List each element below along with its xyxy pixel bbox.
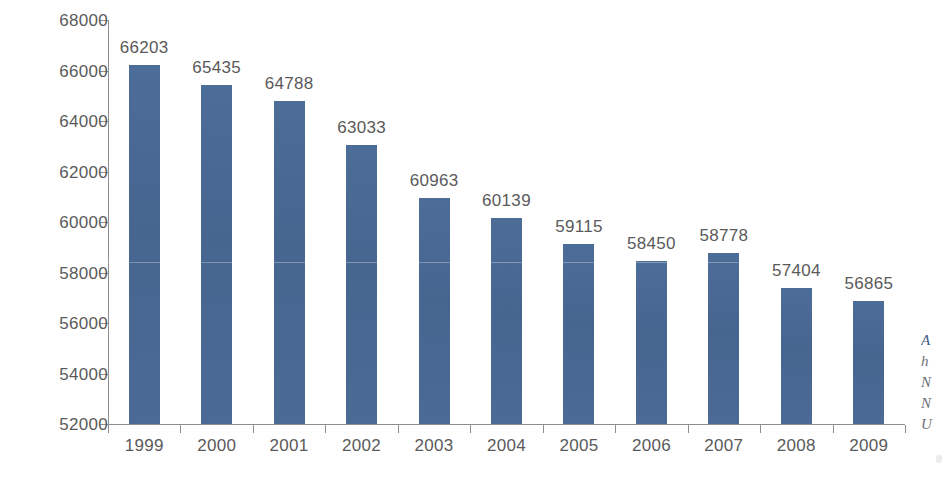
x-axis-tick xyxy=(180,425,181,433)
x-axis-tick xyxy=(833,425,834,433)
bar-value-label: 56865 xyxy=(829,275,909,292)
x-axis-tick-label: 1999 xyxy=(108,437,180,454)
x-axis-tick xyxy=(905,425,906,433)
side-note-clipped: AhNNU xyxy=(921,330,948,435)
bar xyxy=(781,288,812,424)
x-axis-tick-label: 2005 xyxy=(543,437,615,454)
side-note-line: N xyxy=(921,393,948,414)
x-axis-tick-label: 2001 xyxy=(253,437,325,454)
bar-value-label: 58450 xyxy=(611,235,691,252)
bar xyxy=(636,261,667,424)
bar-value-label: 65435 xyxy=(177,59,257,76)
bar xyxy=(201,85,232,424)
x-axis-tick-label: 2004 xyxy=(471,437,543,454)
x-axis-tick xyxy=(688,425,689,433)
bar xyxy=(274,101,305,424)
bar xyxy=(346,145,377,424)
x-axis-tick xyxy=(760,425,761,433)
x-axis-tick-label: 2007 xyxy=(688,437,760,454)
x-axis-tick xyxy=(253,425,254,433)
bar-value-label: 59115 xyxy=(539,218,619,235)
x-axis-tick xyxy=(543,425,544,433)
x-axis-tick-label: 2009 xyxy=(833,437,905,454)
bar-value-label: 60139 xyxy=(467,192,547,209)
bar-value-label: 58778 xyxy=(684,227,764,244)
page-edge-artifact xyxy=(936,455,942,463)
y-axis-tick-label: 64000 xyxy=(36,113,108,130)
x-axis-tick-label: 2006 xyxy=(615,437,687,454)
y-axis-tick-label: 58000 xyxy=(36,265,108,282)
bar-value-label: 63033 xyxy=(322,119,402,136)
side-note-line: U xyxy=(921,414,948,435)
x-axis-tick xyxy=(470,425,471,433)
side-note-line: N xyxy=(921,372,948,393)
y-axis-line xyxy=(108,20,109,425)
x-axis-tick-label: 2000 xyxy=(181,437,253,454)
bar xyxy=(419,198,450,424)
y-axis-tick-label: 66000 xyxy=(36,63,108,80)
bar-value-label: 66203 xyxy=(104,39,184,56)
x-axis-tick xyxy=(615,425,616,433)
side-note-line: h xyxy=(921,351,948,372)
x-axis-tick-label: 2008 xyxy=(760,437,832,454)
x-axis-tick xyxy=(325,425,326,433)
x-axis-tick-label: 2003 xyxy=(398,437,470,454)
bar xyxy=(708,253,739,424)
bar xyxy=(853,301,884,424)
x-axis-line xyxy=(108,424,905,425)
y-axis-tick-label: 52000 xyxy=(36,416,108,433)
x-axis-tick-label: 2002 xyxy=(326,437,398,454)
bar-chart: 5200054000560005800060000620006400066000… xyxy=(0,0,948,489)
x-axis-tick xyxy=(108,425,109,433)
bar-value-label: 57404 xyxy=(756,262,836,279)
y-axis-tick-label: 60000 xyxy=(36,214,108,231)
bar xyxy=(563,244,594,424)
y-axis-tick-label: 62000 xyxy=(36,164,108,181)
bar xyxy=(129,65,160,424)
y-axis-tick-label: 68000 xyxy=(36,12,108,29)
x-axis-tick xyxy=(398,425,399,433)
bar xyxy=(491,218,522,424)
bar-value-label: 64788 xyxy=(249,75,329,92)
y-axis-tick-label: 56000 xyxy=(36,315,108,332)
side-note-line: A xyxy=(921,330,948,351)
y-axis-tick-label: 54000 xyxy=(36,366,108,383)
bar-value-label: 60963 xyxy=(394,172,474,189)
